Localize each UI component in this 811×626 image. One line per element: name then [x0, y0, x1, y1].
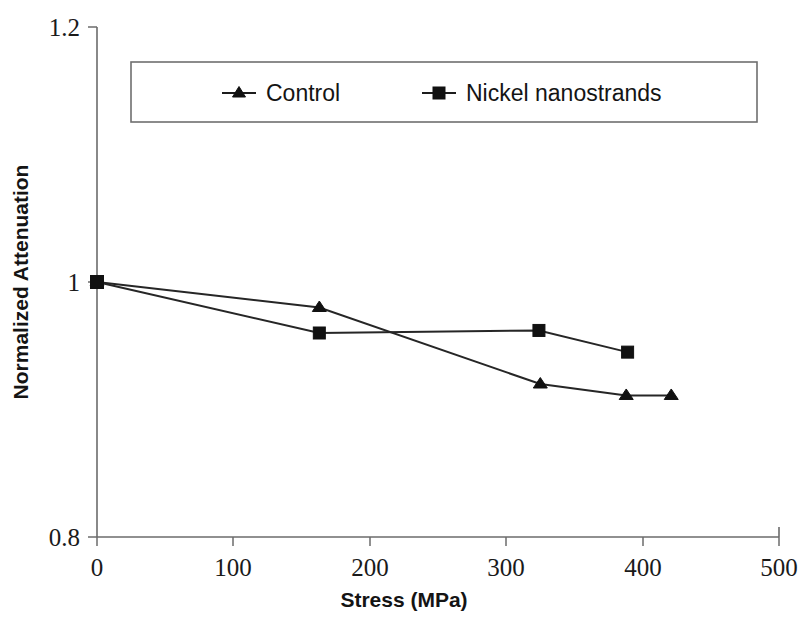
x-axis-title: Stress (MPa)	[340, 588, 467, 611]
y-tick-label-mid: 1	[68, 269, 81, 296]
series-line	[97, 282, 628, 352]
series-layer	[90, 276, 678, 400]
y-axis-title: Normalized Attenuation	[9, 165, 32, 400]
square-marker-icon	[313, 327, 325, 339]
x-tick-label-500: 500	[760, 554, 798, 581]
x-tick-label-400: 400	[624, 554, 662, 581]
y-tick-label-top: 1.2	[49, 14, 80, 41]
x-tick-label-200: 200	[351, 554, 389, 581]
chart-container: 1.2 1 0.8 0 100 200 300 400 500 Stress (…	[0, 0, 811, 626]
chart-legend: Control Nickel nanostrands	[131, 62, 757, 122]
series-control	[90, 276, 678, 400]
legend-label-nickel-nanostrands: Nickel nanostrands	[466, 80, 662, 106]
triangle-marker-icon	[664, 389, 678, 400]
x-tick-marks	[97, 537, 779, 546]
square-marker-icon	[622, 346, 634, 358]
x-tick-label-300: 300	[487, 554, 525, 581]
square-marker-icon	[91, 276, 104, 289]
x-tick-label-100: 100	[214, 554, 252, 581]
y-tick-label-bottom: 0.8	[49, 524, 80, 551]
x-tick-label-0: 0	[91, 554, 104, 581]
series-line	[97, 282, 671, 395]
square-marker-icon	[433, 87, 445, 99]
chart-canvas: 1.2 1 0.8 0 100 200 300 400 500 Stress (…	[0, 0, 811, 626]
legend-label-control: Control	[266, 80, 340, 106]
series-nickel-nanostrands	[91, 276, 634, 359]
square-marker-icon	[533, 324, 545, 336]
